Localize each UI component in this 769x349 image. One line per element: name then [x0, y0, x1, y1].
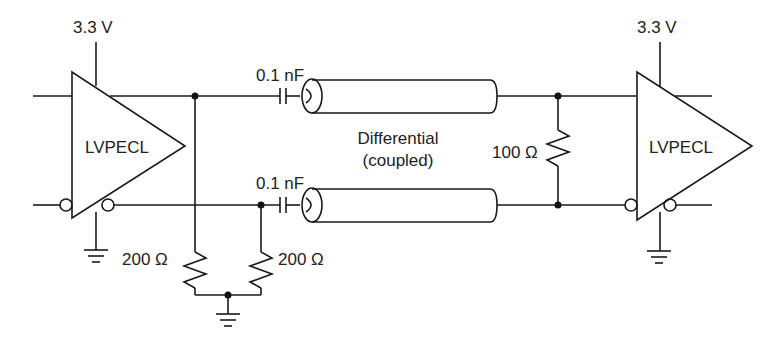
receiver-label: LVPECL: [649, 138, 713, 157]
line-label-2: (coupled): [363, 151, 434, 170]
driver-label: LVPECL: [85, 138, 149, 157]
circuit-diagram: 200 Ω 200 Ω 0.1 nF 0.1 nF Differential (…: [0, 0, 769, 349]
coax-bottom: [302, 188, 560, 222]
receiver-ground-icon: [647, 251, 671, 263]
termination-resistor: [547, 93, 637, 209]
line-label-1: Differential: [358, 129, 439, 148]
resistor-200-right: [250, 252, 272, 288]
driver-lvpecl: [33, 42, 280, 262]
coax-top: [302, 79, 560, 113]
capacitor-label-bottom: 0.1 nF: [256, 174, 304, 193]
resistor-200-left: [184, 252, 206, 288]
capacitor-bottom: [280, 197, 300, 213]
capacitor-top: [280, 88, 300, 104]
bias-ground-icon: [216, 314, 240, 326]
bias-network: 200 Ω 200 Ω: [122, 93, 324, 327]
driver-output-inversion-bubble: [102, 199, 114, 211]
termination-label: 100 Ω: [492, 143, 538, 162]
driver-ground-icon: [84, 250, 108, 262]
resistor-label-left: 200 Ω: [122, 250, 168, 269]
receiver-supply-label: 3.3 V: [637, 18, 677, 37]
receiver-output-inversion-bubble: [664, 199, 676, 211]
driver-input-inversion-bubble: [60, 199, 72, 211]
driver-supply-label: 3.3 V: [73, 18, 113, 37]
resistor-label-right: 200 Ω: [278, 250, 324, 269]
receiver-input-inversion-bubble: [625, 199, 637, 211]
capacitor-label-top: 0.1 nF: [256, 66, 304, 85]
